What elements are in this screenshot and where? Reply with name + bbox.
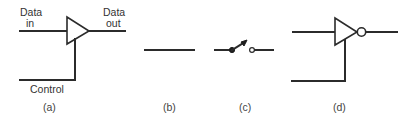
- panel-b: (b): [145, 50, 194, 113]
- control-label: Control: [30, 83, 64, 95]
- caption-c: (c): [239, 101, 251, 113]
- switch-contact-open-icon: [250, 48, 255, 53]
- caption-a: (a): [43, 101, 56, 113]
- panel-a: Data in Data out Control (a): [20, 6, 125, 113]
- data-in-label-line2: in: [26, 17, 34, 29]
- panel-c: (c): [215, 40, 273, 113]
- control-wire: [20, 39, 75, 80]
- panel-d: (d): [292, 18, 397, 113]
- tri-state-buffer-figure: Data in Data out Control (a) (b) (c) (d): [0, 0, 413, 118]
- buffer-triangle-icon: [67, 17, 89, 44]
- switch-arrow-icon: [241, 40, 247, 46]
- caption-b: (b): [163, 101, 176, 113]
- inverter-control-wire: [292, 40, 345, 81]
- inversion-bubble-icon: [357, 28, 365, 36]
- caption-d: (d): [333, 101, 346, 113]
- data-out-label-line2: out: [106, 17, 121, 29]
